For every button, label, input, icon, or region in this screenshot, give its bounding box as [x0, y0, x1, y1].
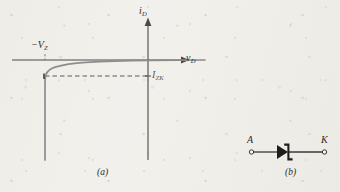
y-axis-label: iD	[139, 6, 147, 16]
knee-current-label: IZK	[152, 70, 163, 80]
anode-terminal-node	[249, 150, 253, 154]
diode-triangle	[277, 145, 288, 159]
x-axis-label: vD	[186, 53, 195, 63]
anode-label: A	[247, 135, 253, 145]
cathode-label: K	[321, 135, 328, 145]
zener-iv-curve	[45, 60, 205, 160]
cathode-terminal-node	[322, 150, 326, 154]
zener-diode-symbol-group	[249, 145, 326, 160]
caption-b: (b)	[285, 168, 296, 178]
breakdown-voltage-label: −VZ	[31, 40, 48, 50]
figure-vector-layer	[0, 0, 340, 192]
y-axis-arrowhead	[145, 18, 152, 27]
figure-root: iD vD −VZ IZK A K (a) (b)	[0, 0, 340, 192]
caption-a: (a)	[97, 168, 108, 178]
